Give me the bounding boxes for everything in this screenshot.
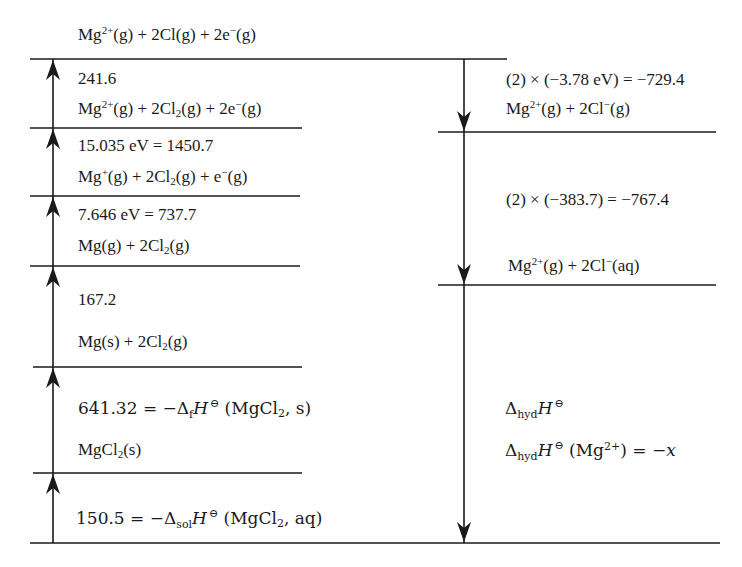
step-value-ea-cl: 241.6: [78, 69, 116, 89]
step-value-electron-affinity: (2) × (−3.78 eV) = −729.4: [506, 70, 685, 90]
level-label-right-1: Mg2+(g) + 2Cl−(g): [506, 99, 630, 119]
step-value-solution: 150.5 = −ΔsolH⊖ (MgCl2, aq): [76, 508, 322, 528]
level-label-top: Mg2+(g) + 2Cl(g) + 2e−(g): [78, 25, 256, 45]
step-value-ie1: 7.646 eV = 737.7: [78, 205, 196, 225]
level-label-2: Mg+(g) + 2Cl2(g) + e−(g): [78, 167, 247, 187]
born-haber-diagram: Mg2+(g) + 2Cl(g) + 2e−(g) 241.6 Mg2+(g) …: [0, 0, 742, 567]
hydration-equation-note: ΔhydH⊖ (Mg2+) = −x: [505, 440, 676, 460]
level-label-3: Mg(g) + 2Cl2(g): [78, 236, 189, 256]
level-label-right-2: Mg2+(g) + 2Cl−(aq): [508, 256, 639, 276]
step-value-cl-hydration: (2) × (−383.7) = −767.4: [506, 190, 669, 210]
step-value-mg-hydration: ΔhydH⊖: [505, 398, 564, 418]
level-label-5: MgCl2(s): [78, 440, 141, 460]
level-label-1: Mg2+(g) + 2Cl2(g) + 2e−(g): [78, 99, 261, 119]
step-value-formation: 641.32 = −ΔfH⊖ (MgCl2, s): [78, 398, 311, 418]
level-label-4: Mg(s) + 2Cl2(g): [78, 332, 188, 352]
step-value-ie2: 15.035 eV = 1450.7: [78, 136, 213, 156]
step-value-sublimation: 167.2: [78, 290, 116, 310]
